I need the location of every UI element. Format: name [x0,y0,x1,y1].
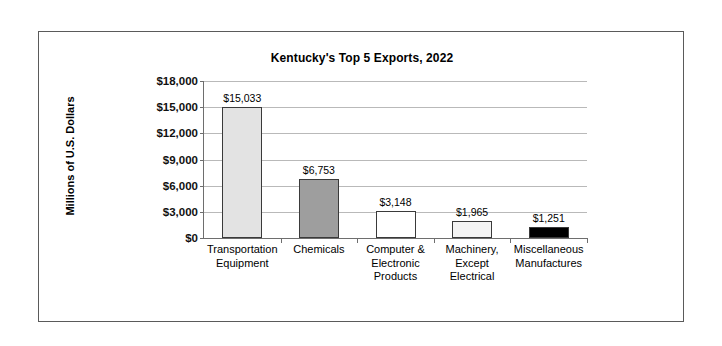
x-axis-label-line: Manufactures [510,257,587,271]
y-axis-tick-label: $18,000 [156,75,198,87]
x-axis-label-line: Except [434,257,511,271]
x-axis-label-line: Electrical [434,270,511,284]
y-axis-tick [200,160,204,161]
bar-value-label: $3,148 [356,196,436,208]
y-axis-tick-label: $3,000 [163,206,198,218]
bar-value-label: $15,033 [202,92,282,104]
bar-chart: Kentucky's Top 5 Exports, 2022 Millions … [39,32,685,323]
plot-area: $18,000$15,000$12,000$9,000$6,000$3,000$… [204,81,587,238]
x-axis-category-label: Machinery,ExceptElectrical [434,243,511,284]
x-axis-label-line: Computer & [357,243,434,257]
x-axis-category-label: TransportationEquipment [204,243,281,270]
y-axis-tick [200,107,204,108]
x-axis-baseline [204,238,587,239]
y-axis-tick-label: $15,000 [156,101,198,113]
x-axis-category-label: Chemicals [281,243,358,257]
y-axis-tick-label: $9,000 [163,154,198,166]
x-axis-label-line: Chemicals [281,243,358,257]
chart-title: Kentucky's Top 5 Exports, 2022 [39,51,685,65]
y-axis-tick [200,186,204,187]
x-axis-label-line: Transportation [204,243,281,257]
bar[interactable] [452,221,492,238]
x-axis-category-label: Computer &ElectronicProducts [357,243,434,284]
gridline [204,81,587,82]
x-axis-label-line: Equipment [204,257,281,271]
y-axis-tick [200,238,204,239]
y-axis-tick [200,81,204,82]
x-axis-label-line: Products [357,270,434,284]
figure-border: Kentucky's Top 5 Exports, 2022 Millions … [38,31,684,322]
bar-value-label: $1,965 [432,206,512,218]
bar-value-label: $6,753 [279,164,359,176]
bar[interactable] [299,179,339,238]
y-axis-title: Millions of U.S. Dollars [64,76,76,236]
y-axis-tick-label: $0 [185,232,198,244]
x-axis-label-line: Electronic [357,257,434,271]
y-axis-tick [200,212,204,213]
y-axis-tick-label: $6,000 [163,180,198,192]
category-divider-tick [587,238,588,243]
bar[interactable] [376,211,416,238]
bar[interactable] [222,107,262,238]
x-axis-label-line: Miscellaneous [510,243,587,257]
x-axis-label-line: Machinery, [434,243,511,257]
bar-value-label: $1,251 [509,212,589,224]
x-axis-category-label: MiscellaneousManufactures [510,243,587,270]
bar[interactable] [529,227,569,238]
y-axis-tick-label: $12,000 [156,127,198,139]
y-axis-tick [200,133,204,134]
